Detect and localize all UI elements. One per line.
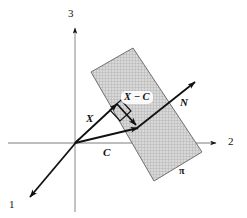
vector-label-n: N xyxy=(180,97,188,108)
vector-diagram-figure: 3 2 1 X C X − C N π xyxy=(0,0,247,218)
axis-label-1: 1 xyxy=(9,199,15,210)
axis-label-3: 3 xyxy=(68,8,74,19)
vector-label-c: C xyxy=(103,147,110,158)
plane-pi xyxy=(91,48,202,181)
plane-label-pi: π xyxy=(179,166,184,176)
plane-pi-surface xyxy=(91,48,202,181)
figure-canvas xyxy=(0,0,247,218)
vector-label-x: X xyxy=(86,113,93,124)
axis-1-group xyxy=(30,140,78,197)
axis-label-2: 2 xyxy=(228,136,234,147)
axis-1-line xyxy=(30,140,78,197)
vector-label-x-minus-c: X − C xyxy=(121,91,153,104)
axis-lines-group xyxy=(8,28,216,212)
